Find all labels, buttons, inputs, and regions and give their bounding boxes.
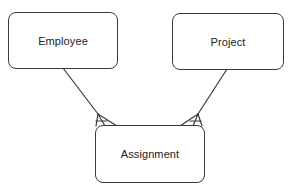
entity-label: Project (211, 36, 246, 48)
er-diagram: Employee Project Assignment (0, 0, 290, 192)
entity-employee[interactable]: Employee (8, 12, 118, 69)
entity-label: Employee (38, 35, 88, 47)
relationship-project-assignment (180, 69, 227, 126)
entity-project[interactable]: Project (172, 13, 284, 70)
relationship-employee-assignment (63, 68, 117, 126)
entity-label: Assignment (121, 148, 179, 160)
entity-assignment[interactable]: Assignment (95, 125, 205, 183)
